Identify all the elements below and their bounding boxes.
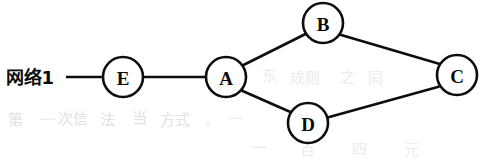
node-c[interactable]: C: [437, 55, 477, 95]
bleed-mark: 第: [8, 111, 23, 129]
bleed-mark: 当: [132, 109, 147, 127]
bleed-mark: 一: [40, 111, 55, 129]
node-a-label: A: [219, 68, 233, 89]
bleed-mark: 次信: [58, 110, 88, 128]
bleed-mark: 成则: [290, 69, 320, 87]
network-diagram-canvas: 第 一 次信 法 当 方式 。 一 东 成则 之 同 一 百 四 元 网络: [0, 0, 481, 162]
network-diagram-figure: 第 一 次信 法 当 方式 。 一 东 成则 之 同 一 百 四 元 网络: [0, 0, 481, 162]
node-d-label: D: [301, 114, 315, 135]
node-d[interactable]: D: [288, 103, 328, 143]
node-a[interactable]: A: [206, 57, 246, 97]
node-c-label: C: [450, 66, 464, 87]
bleed-mark: 一: [252, 139, 267, 157]
node-b-label: B: [317, 14, 330, 35]
bleed-mark: 同: [368, 69, 383, 87]
bleed-mark: 东: [262, 67, 277, 85]
network1-label: 网络1: [6, 67, 54, 88]
bleed-mark: 法: [100, 111, 115, 129]
node-b[interactable]: B: [303, 3, 343, 43]
bleed-mark: 。: [205, 111, 220, 129]
bleed-mark: 之: [340, 68, 355, 86]
node-e-label: E: [117, 68, 130, 89]
node-e[interactable]: E: [103, 57, 143, 97]
bleed-mark: 四: [352, 140, 367, 158]
bleed-mark: 方式: [160, 111, 190, 129]
bleed-mark: 元: [404, 141, 419, 159]
bleed-mark: 一: [228, 110, 243, 128]
